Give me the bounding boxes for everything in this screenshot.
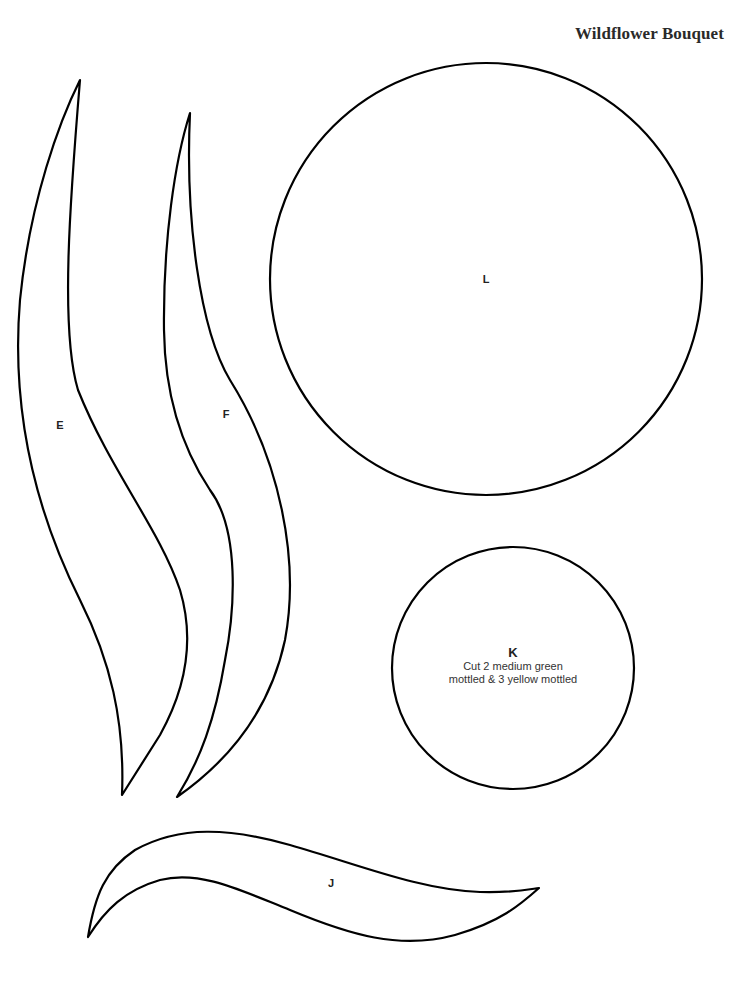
pattern-page: Wildflower Bouquet E F L J K Cut 2 mediu… [0, 0, 738, 983]
piece-j-outline [88, 832, 539, 941]
piece-k-instruction-2: mottled & 3 yellow mottled [413, 673, 613, 686]
piece-l-label: L [483, 273, 490, 285]
piece-f-label: F [223, 408, 230, 420]
piece-k-text: K Cut 2 medium green mottled & 3 yellow … [413, 645, 613, 686]
piece-e-label: E [56, 419, 63, 431]
pattern-shapes [0, 0, 738, 983]
piece-k-label: K [413, 645, 613, 660]
piece-e-outline [18, 80, 187, 795]
piece-k-instruction-1: Cut 2 medium green [413, 660, 613, 673]
piece-j-label: J [328, 877, 334, 889]
piece-f-outline [164, 113, 290, 797]
